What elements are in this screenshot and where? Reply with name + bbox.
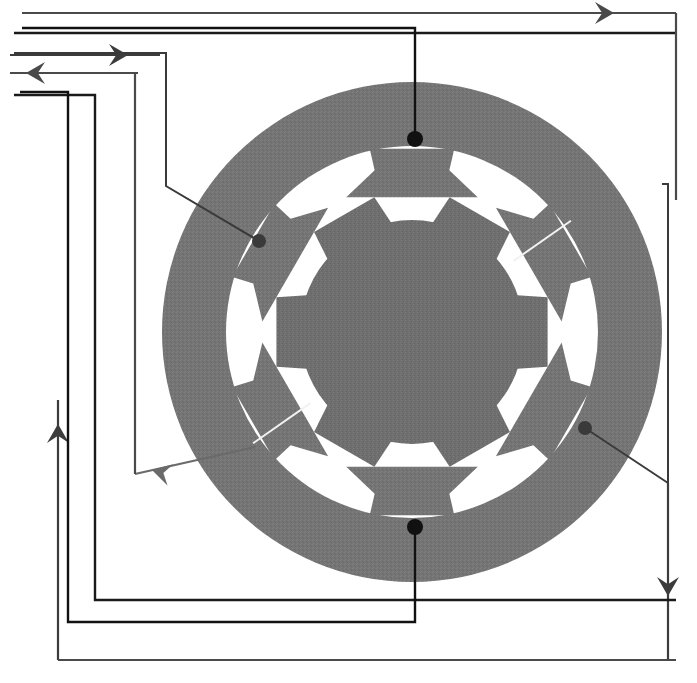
rotor-pole <box>513 295 547 369</box>
arrow-diagonal-rotor <box>149 459 173 485</box>
machine-cross-section-figure <box>0 0 697 683</box>
callout-bottom-dot <box>407 519 423 535</box>
route-right-down <box>657 483 679 660</box>
callout-right-dot <box>578 421 592 435</box>
diagram-canvas <box>0 0 697 683</box>
rotor-pole <box>276 295 310 369</box>
route-left-frame-inner-line <box>10 73 135 474</box>
machine-cross-section <box>162 82 662 582</box>
callout-top-dot <box>407 131 423 147</box>
route-left-up <box>47 400 69 660</box>
route-feed-right-arrow <box>10 44 160 66</box>
route-outer-top-to-right <box>22 2 676 24</box>
callout-upper-left-dot <box>252 234 266 248</box>
route-left-frame-inner <box>10 73 135 474</box>
